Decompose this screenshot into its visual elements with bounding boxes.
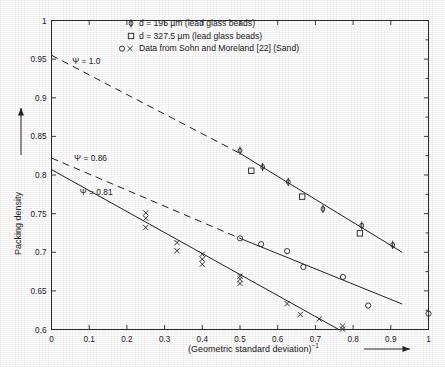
y-tick-label-1: 0.65 (31, 287, 47, 296)
psi-annotation-0: Ψ = 1.0 (72, 56, 101, 66)
data-points (143, 146, 431, 331)
data-point-1-2 (357, 231, 362, 236)
legend-item-1: d = 327.5 µm (lead glass beads) (128, 31, 262, 41)
legend-marker-circle-icon (119, 46, 124, 51)
x-axis-arrow-head (403, 346, 411, 352)
fit-line-3 (240, 238, 402, 304)
x-tick-label-5: 0.5 (234, 335, 246, 344)
data-point-3-11 (285, 301, 290, 306)
legend-item-2: Data from Sohn and Moreland [22] (Sand) (119, 43, 299, 53)
x-tick-label-10: 1 (426, 335, 431, 344)
y-tick-label-8: 1 (42, 17, 47, 26)
x-tick-label-0: 0 (49, 335, 54, 344)
psi-annotation-1: Ψ = 0.86 (74, 153, 107, 163)
psi-annotation-2: Ψ = 0.81 (80, 187, 113, 197)
y-tick-label-2: 0.7 (35, 248, 47, 257)
data-point-2-5 (366, 303, 371, 308)
legend-label-1: d = 327.5 µm (lead glass beads) (139, 31, 262, 41)
y-tick-label-5: 0.85 (31, 132, 47, 141)
series-1 (249, 168, 363, 236)
x-tick-label-8: 0.8 (347, 335, 359, 344)
series-3 (143, 210, 345, 331)
y-axis-title: Packing density (13, 191, 23, 255)
legend-label-2: Data from Sohn and Moreland [22] (Sand) (139, 43, 299, 53)
data-point-3-0 (143, 210, 148, 215)
data-point-3-3 (174, 240, 179, 245)
data-point-3-6 (200, 257, 205, 262)
x-tick-label-6: 0.6 (272, 335, 284, 344)
x-axis-title: (Geometric standard deviation)−1 (188, 342, 319, 354)
x-tick-label-4: 0.4 (197, 335, 209, 344)
y-axis-arrow-head (18, 108, 24, 116)
legend-marker-square-icon (128, 33, 133, 38)
data-point-2-3 (301, 264, 306, 269)
x-axis-tick-labels: 00.10.20.30.40.50.60.70.80.91 (49, 335, 431, 344)
x-tick-label-2: 0.2 (121, 335, 133, 344)
x-tick-label-3: 0.3 (159, 335, 171, 344)
x-tick-label-1: 0.1 (84, 335, 96, 344)
figure-container: 00.10.20.30.40.50.60.70.80.91 0.60.650.7… (0, 0, 445, 367)
fit-line-0 (52, 55, 241, 153)
packing-density-chart: 00.10.20.30.40.50.60.70.80.91 0.60.650.7… (0, 0, 445, 367)
data-point-3-2 (143, 225, 148, 230)
y-tick-label-3: 0.75 (31, 210, 47, 219)
y-tick-label-0: 0.6 (35, 326, 47, 335)
data-point-2-1 (259, 242, 264, 247)
x-axis-title: (Geometric standard deviation)−1 (188, 342, 410, 354)
data-point-1-1 (300, 194, 305, 199)
y-axis-title: Packing density (13, 108, 24, 255)
legend-item-0: d = 195 µm (lead glass beads) (129, 18, 255, 28)
legend: d = 195 µm (lead glass beads)d = 327.5 µ… (119, 18, 299, 53)
y-tick-label-6: 0.9 (35, 94, 47, 103)
data-point-2-2 (285, 248, 290, 253)
fit-line-2 (52, 158, 241, 238)
data-point-0-3 (321, 205, 325, 213)
x-tick-label-9: 0.9 (385, 335, 397, 344)
data-point-3-1 (143, 216, 148, 221)
data-point-3-10 (237, 281, 242, 286)
data-point-1-0 (249, 168, 254, 173)
data-point-3-12 (298, 312, 303, 317)
y-tick-label-7: 0.95 (31, 55, 47, 64)
y-axis-tick-labels: 0.60.650.70.750.80.850.90.951 (31, 17, 47, 335)
data-point-3-4 (174, 248, 179, 253)
y-tick-label-4: 0.8 (35, 171, 47, 180)
legend-label-0: d = 195 µm (lead glass beads) (139, 18, 255, 28)
data-point-3-7 (200, 262, 205, 267)
data-point-2-4 (340, 274, 345, 279)
legend-marker-cross-icon (127, 46, 132, 51)
psi-annotations: Ψ = 1.0Ψ = 0.86Ψ = 0.81 (72, 56, 113, 197)
